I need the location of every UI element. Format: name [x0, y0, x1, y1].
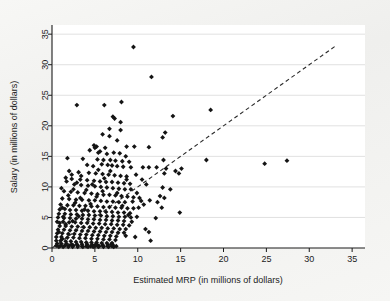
y-tick-label-15: 15 — [40, 151, 50, 161]
x-tick-label-20: 20 — [218, 254, 228, 264]
y-axis-ticks: 05101520253035 — [40, 29, 52, 250]
plot-svg: 05101520253035 05101520253035 Estimated … — [0, 0, 390, 301]
figure-container: 05101520253035 05101520253035 Estimated … — [0, 0, 390, 301]
y-tick-label-25: 25 — [40, 90, 50, 100]
x-tick-label-5: 5 — [92, 254, 97, 264]
x-tick-label-15: 15 — [176, 254, 186, 264]
y-tick-label-10: 10 — [40, 182, 50, 192]
x-axis-ticks: 05101520253035 — [49, 248, 357, 264]
x-tick-label-35: 35 — [347, 254, 357, 264]
y-tick-label-30: 30 — [40, 60, 50, 70]
x-tick-label-25: 25 — [261, 254, 271, 264]
y-axis-title: Salary (in millions of dollars) — [9, 81, 19, 194]
y-tick-label-35: 35 — [40, 29, 50, 39]
scatter-plot: 05101520253035 05101520253035 Estimated … — [0, 0, 390, 301]
y-tick-label-20: 20 — [40, 121, 50, 131]
x-axis-title: Estimated MRP (in millions of dollars) — [133, 275, 282, 285]
y-tick-label-0: 0 — [40, 245, 50, 250]
x-tick-label-10: 10 — [133, 254, 143, 264]
y-tick-label-5: 5 — [40, 215, 50, 220]
x-tick-label-30: 30 — [304, 254, 314, 264]
x-tick-label-0: 0 — [49, 254, 54, 264]
